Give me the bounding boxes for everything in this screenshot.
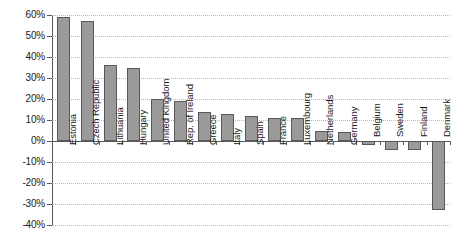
y-axis-tick bbox=[47, 225, 52, 226]
y-axis-tick-label: 20% bbox=[1, 94, 45, 104]
plot-area: EstoniaCzech RepublicLithuaniaHungaryUni… bbox=[52, 15, 450, 225]
bar bbox=[385, 141, 398, 150]
y-axis-tick bbox=[47, 141, 52, 142]
y-axis-tick bbox=[47, 36, 52, 37]
gridline bbox=[52, 162, 450, 163]
y-axis-labels: 60%50%40%30%20%10%0%-10%-20%-30%-40% bbox=[0, 0, 45, 241]
gridline bbox=[52, 225, 450, 226]
x-axis-category-label: Belgium bbox=[372, 103, 382, 137]
y-axis-tick bbox=[47, 204, 52, 205]
y-axis-tick-label: 10% bbox=[1, 115, 45, 125]
x-axis-category-label: Italy bbox=[232, 128, 242, 145]
x-axis-category-label: United Kingdom bbox=[161, 79, 171, 145]
x-axis-category-label: Rep. of Ireland bbox=[185, 84, 195, 145]
y-axis-tick-label: -20% bbox=[1, 178, 45, 188]
x-axis-category-label: Czech Republic bbox=[91, 80, 101, 145]
x-axis-category-label: Sweden bbox=[395, 103, 405, 137]
gridline bbox=[52, 15, 450, 16]
y-axis-tick-label: 30% bbox=[1, 73, 45, 83]
y-axis-tick-label: 50% bbox=[1, 31, 45, 41]
y-axis-tick-label: -30% bbox=[1, 199, 45, 209]
x-axis-category-label: Luxembourg bbox=[302, 93, 312, 145]
y-axis-tick-label: -40% bbox=[1, 220, 45, 230]
x-axis-category-label: Lithuania bbox=[115, 107, 125, 145]
x-axis-category-label: Estonia bbox=[68, 114, 78, 145]
gridline bbox=[52, 204, 450, 205]
gridline bbox=[52, 57, 450, 58]
y-axis-tick-label: 60% bbox=[1, 10, 45, 20]
y-axis-tick-label: 0% bbox=[1, 136, 45, 146]
y-axis-tick bbox=[47, 57, 52, 58]
x-axis-tick bbox=[450, 141, 451, 145]
x-axis-category-label: Germany bbox=[349, 107, 359, 145]
y-axis-tick bbox=[47, 99, 52, 100]
bar bbox=[432, 141, 445, 210]
y-axis-tick bbox=[47, 162, 52, 163]
y-axis-tick bbox=[47, 15, 52, 16]
x-axis-category-label: France bbox=[278, 116, 288, 145]
y-axis-tick bbox=[47, 78, 52, 79]
gridline bbox=[52, 36, 450, 37]
y-axis-tick bbox=[47, 183, 52, 184]
bar bbox=[362, 141, 375, 145]
x-axis-category-label: Denmark bbox=[442, 99, 452, 137]
bar-chart: 60%50%40%30%20%10%0%-10%-20%-30%-40% Est… bbox=[0, 0, 457, 241]
y-axis-tick-label: -10% bbox=[1, 157, 45, 167]
x-axis-tick bbox=[380, 141, 381, 145]
gridline bbox=[52, 183, 450, 184]
x-axis-tick bbox=[403, 141, 404, 145]
x-axis-category-label: Hungary bbox=[138, 110, 148, 145]
x-axis-category-label: Spain bbox=[255, 121, 265, 145]
x-axis-category-label: Greece bbox=[208, 114, 218, 145]
x-axis-category-label: Finland bbox=[419, 107, 429, 137]
y-axis-tick bbox=[47, 120, 52, 121]
x-axis-tick bbox=[427, 141, 428, 145]
bar bbox=[408, 141, 421, 150]
x-axis-category-label: Netherlands bbox=[325, 95, 335, 145]
y-axis-tick-label: 40% bbox=[1, 52, 45, 62]
